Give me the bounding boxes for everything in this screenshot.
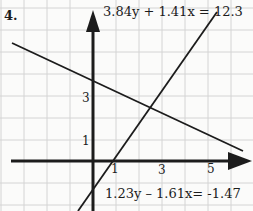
equation-line-b: 1.23y – 1.61x= -1.47 [105,186,241,201]
x-tick-5: 5 [207,162,215,176]
grid [0,0,253,211]
y-tick-3: 3 [82,91,90,105]
x-tick-1: 1 [111,162,119,176]
x-axis-arrow-icon [228,152,252,170]
y-axis [86,10,100,211]
coordinate-plane [0,0,253,211]
line-b [78,12,217,211]
x-tick-3: 3 [158,163,166,177]
y-tick-1: 1 [82,134,90,148]
graph-figure: 4. 3.84y + 1.41x = 12.3 1.23y – 1.61x= -… [0,0,253,211]
equation-line-a: 3.84y + 1.41x = 12.3 [103,4,243,19]
y-axis-arrow-icon [86,10,100,32]
problem-number: 4. [4,8,18,23]
